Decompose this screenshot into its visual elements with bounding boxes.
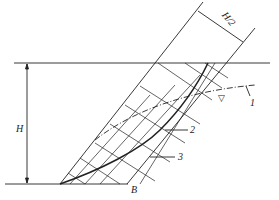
arrow-down-icon xyxy=(26,178,29,183)
height-label: H xyxy=(16,124,23,134)
band-right-edge xyxy=(127,28,255,184)
curve-2 xyxy=(60,63,208,184)
curve-1-label: 1 xyxy=(250,98,255,108)
hatching xyxy=(68,63,228,184)
curve-2-label: 2 xyxy=(190,125,195,135)
slope-diagram-svg xyxy=(0,0,279,200)
point-b-label: B xyxy=(131,185,137,195)
curve-3-label: 3 xyxy=(178,152,183,162)
diagram: H H/2 B 2 3 1 ▽ xyxy=(0,0,279,200)
leader-1 xyxy=(246,86,250,96)
water-level-icon: ▽ xyxy=(218,94,225,103)
arrow-up-icon xyxy=(26,64,29,69)
